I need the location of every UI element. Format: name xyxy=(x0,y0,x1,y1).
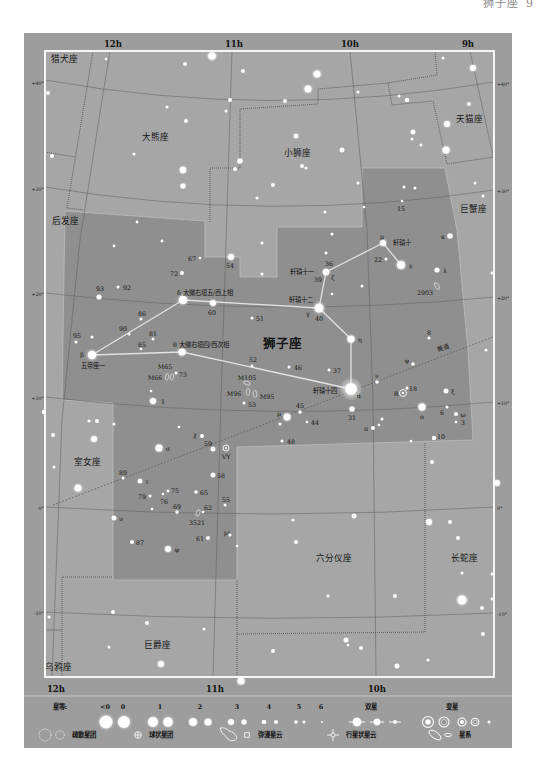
star xyxy=(261,273,264,276)
star xyxy=(130,540,134,544)
star xyxy=(314,71,321,78)
star xyxy=(180,271,184,275)
ra-label-top: 9h xyxy=(462,39,475,49)
star-label: γ xyxy=(306,310,310,318)
star xyxy=(48,616,51,619)
star xyxy=(151,508,154,511)
constellation-label: 六分仪座 xyxy=(316,552,352,563)
star-label: M66 xyxy=(148,374,162,381)
star xyxy=(349,406,355,412)
star xyxy=(203,628,206,631)
star xyxy=(149,495,152,498)
star-label: 44 xyxy=(311,419,319,426)
star xyxy=(443,147,450,154)
magnitude-star-icon xyxy=(321,721,323,723)
star-label: 55 xyxy=(222,496,230,503)
dec-label-left: +30° xyxy=(31,187,44,192)
star-label: M65 xyxy=(158,363,172,370)
star xyxy=(427,659,430,662)
star xyxy=(183,62,187,66)
dec-label-right: +40° xyxy=(497,82,510,87)
star xyxy=(432,436,436,440)
star-label: 52 xyxy=(249,356,257,363)
star xyxy=(133,153,136,156)
dec-label-left: +10° xyxy=(31,396,44,401)
star xyxy=(283,99,287,103)
star-label: θ 太微右垣四/西次相 xyxy=(173,340,229,349)
star xyxy=(199,257,202,260)
star xyxy=(327,595,330,598)
star xyxy=(323,269,329,275)
star xyxy=(397,261,405,269)
star xyxy=(461,572,464,575)
dec-label-left: +40° xyxy=(31,81,44,86)
star xyxy=(371,426,375,430)
star xyxy=(300,164,304,168)
star-label: λ xyxy=(443,267,447,274)
star xyxy=(375,380,379,384)
constellation-label: 大熊座 xyxy=(142,131,169,142)
star xyxy=(458,596,467,605)
constellation-label: 长蛇座 xyxy=(451,552,478,563)
star xyxy=(331,233,334,236)
star xyxy=(494,480,500,486)
star xyxy=(378,424,381,427)
star xyxy=(128,333,131,336)
star xyxy=(179,296,187,304)
magnitude-label: 1 xyxy=(158,703,162,711)
star xyxy=(194,490,198,494)
star xyxy=(150,398,156,404)
star-label: 67 xyxy=(188,255,196,262)
constellation-label: 后发座 xyxy=(52,215,79,226)
star-label: 93 xyxy=(96,285,104,292)
star xyxy=(361,285,364,288)
magnitude-star-icon xyxy=(274,720,278,724)
star xyxy=(411,362,415,366)
star xyxy=(46,91,50,95)
star xyxy=(152,338,155,341)
magnitude-label: <0 xyxy=(100,703,110,711)
dec-label-left: 0° xyxy=(39,506,44,511)
star xyxy=(113,423,116,426)
star xyxy=(410,440,413,443)
star xyxy=(380,240,386,246)
star xyxy=(448,520,452,524)
star xyxy=(359,646,363,650)
star xyxy=(175,372,178,375)
star-label: 54 xyxy=(226,262,234,269)
star-label: 3521 xyxy=(189,519,205,526)
star-label: β xyxy=(80,351,84,359)
star xyxy=(271,183,275,187)
star-label: ε xyxy=(409,262,412,269)
ra-label-top: 10h xyxy=(341,39,360,49)
star-label: ξ xyxy=(451,388,455,396)
star-label: 86 xyxy=(138,310,146,317)
star-label: ν xyxy=(375,372,379,379)
star-label: 73 xyxy=(179,371,187,378)
star-label: 81 xyxy=(149,330,157,337)
star xyxy=(88,351,96,359)
star xyxy=(111,610,115,614)
star-label: π xyxy=(364,425,368,432)
star xyxy=(411,138,414,141)
star-chart: 黄道 猎犬座大熊座小狮座天猫座后发座巨蟹座狮子座室女座六分仪座长蛇座巨爵座乌鸦座… xyxy=(0,0,538,780)
star xyxy=(442,57,445,60)
star xyxy=(117,286,120,289)
star-label: 72 xyxy=(170,270,178,277)
star-label: 48 xyxy=(287,438,295,445)
star xyxy=(454,412,458,416)
star-label: τ xyxy=(145,478,149,485)
variable-star-legend-label: 变星 xyxy=(446,702,459,711)
star xyxy=(284,414,291,421)
globular-cluster-legend-label: 球状星团 xyxy=(149,730,173,739)
dec-label-right: -10° xyxy=(497,612,507,617)
star-label: ο xyxy=(420,413,424,420)
star xyxy=(446,406,449,409)
star xyxy=(122,477,125,480)
star xyxy=(434,267,439,272)
star-label: M105 xyxy=(238,374,256,381)
star xyxy=(166,106,169,109)
star xyxy=(480,606,484,610)
star xyxy=(224,504,227,507)
star xyxy=(256,197,259,200)
